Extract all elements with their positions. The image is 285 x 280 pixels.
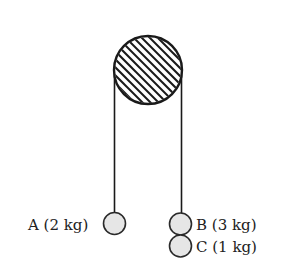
mass-c-label: C (1 kg) bbox=[196, 238, 257, 256]
atwood-machine-diagram: A (2 kg) B (3 kg) C (1 kg) bbox=[0, 0, 285, 280]
mass-b bbox=[170, 213, 192, 235]
mass-a bbox=[104, 213, 126, 235]
pulley bbox=[44, 20, 248, 120]
mass-c bbox=[170, 235, 192, 257]
mass-a-label: A (2 kg) bbox=[27, 216, 88, 234]
mass-b-label: B (3 kg) bbox=[196, 216, 257, 234]
